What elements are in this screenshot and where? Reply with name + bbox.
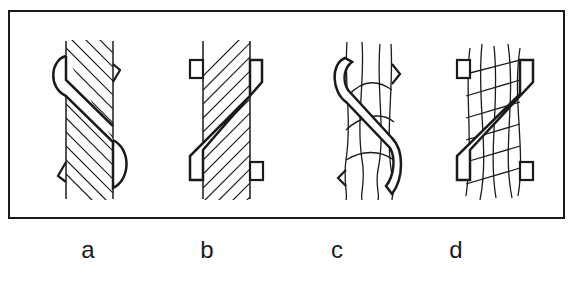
- figure-b: [190, 0, 283, 244]
- figure-label-d: d: [436, 236, 476, 264]
- figure-c: [335, 42, 401, 200]
- figure-label-c: c: [317, 236, 357, 264]
- figure-label-a: a: [68, 236, 108, 264]
- figure-d: [457, 44, 533, 200]
- figure-a: [53, 6, 146, 254]
- figure-label-b: b: [187, 236, 227, 264]
